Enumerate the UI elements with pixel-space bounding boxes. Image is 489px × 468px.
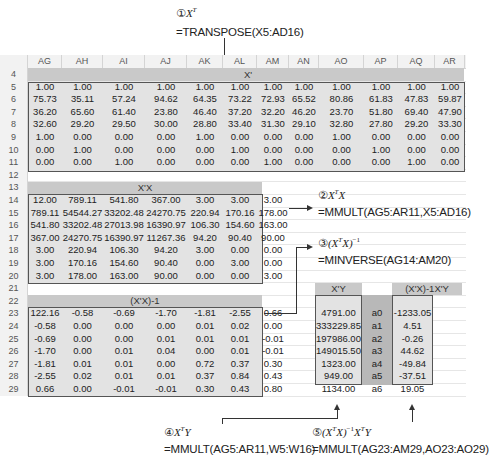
row-header-29[interactable]: 29 — [0, 383, 28, 396]
cell[interactable]: 0.04 — [145, 345, 187, 358]
cell[interactable]: 0.00 — [289, 144, 319, 157]
cell[interactable]: -0.69 — [28, 333, 62, 346]
coef-label-cell[interactable]: a0 — [362, 307, 392, 320]
cell[interactable]: 12.00 — [28, 194, 62, 207]
cell[interactable]: 94.20 — [145, 244, 187, 257]
cell[interactable]: 1.00 — [145, 81, 187, 94]
row-header-16[interactable]: 16 — [0, 219, 28, 232]
cell[interactable]: 1.00 — [257, 156, 289, 169]
cell[interactable]: 1.00 — [103, 156, 145, 169]
cell[interactable]: 0.00 — [289, 131, 319, 144]
cell[interactable]: 1.00 — [187, 81, 223, 94]
cell[interactable]: 220.94 — [62, 244, 103, 257]
cell[interactable]: 3.00 — [257, 270, 289, 283]
cell[interactable]: 1.00 — [319, 131, 364, 144]
cell[interactable]: 32.60 — [28, 118, 62, 131]
cell[interactable]: 65.60 — [62, 106, 103, 119]
cell[interactable]: 29.10 — [289, 118, 319, 131]
cell[interactable]: 0.00 — [62, 345, 103, 358]
col-header-aj[interactable]: AJ — [145, 55, 187, 68]
cell[interactable]: 90.40 — [145, 257, 187, 270]
cell[interactable]: 0.01 — [103, 345, 145, 358]
cell[interactable]: 35.11 — [62, 93, 103, 106]
cell[interactable]: -2.55 — [223, 307, 257, 320]
coef-cell[interactable]: -0.26 — [392, 333, 433, 346]
cell[interactable]: 27013.98 — [103, 219, 145, 232]
row-header-7[interactable]: 7 — [0, 106, 28, 119]
cell[interactable]: 0.30 — [187, 383, 223, 396]
cell[interactable]: 0.00 — [398, 131, 435, 144]
cell[interactable]: 163.00 — [257, 219, 289, 232]
cell[interactable]: 0.43 — [223, 383, 257, 396]
cell[interactable]: -0.01 — [257, 345, 289, 358]
cell[interactable]: 0.00 — [145, 156, 187, 169]
cell[interactable]: 0.01 — [187, 320, 223, 333]
cell[interactable]: 31.30 — [257, 118, 289, 131]
cell[interactable]: 0.01 — [223, 345, 257, 358]
cell[interactable]: -0.01 — [257, 333, 289, 346]
cell[interactable]: 0.00 — [319, 156, 364, 169]
cell[interactable]: 0.00 — [187, 144, 223, 157]
cell[interactable]: 1.00 — [289, 81, 319, 94]
cell[interactable]: 33202.48 — [62, 219, 103, 232]
cell[interactable]: 0.00 — [223, 270, 257, 283]
cell[interactable]: 28.80 — [187, 118, 223, 131]
cell[interactable]: 0.30 — [257, 358, 289, 371]
cell[interactable]: 80.86 — [319, 93, 364, 106]
cell[interactable]: 0.00 — [257, 131, 289, 144]
xty-cell[interactable]: 1134.00 — [315, 383, 362, 396]
cell[interactable]: 1.00 — [62, 81, 103, 94]
cell[interactable]: 1.00 — [435, 81, 465, 94]
coef-label-cell[interactable]: a4 — [362, 358, 392, 371]
cell[interactable]: -1.81 — [28, 358, 62, 371]
cell[interactable]: 0.00 — [145, 144, 187, 157]
cell[interactable]: 0.00 — [103, 144, 145, 157]
cell[interactable]: 367.00 — [145, 194, 187, 207]
coef-cell[interactable]: -37.51 — [392, 370, 433, 383]
cell[interactable]: 29.20 — [398, 118, 435, 131]
cell[interactable]: 0.00 — [319, 144, 364, 157]
row-header-21[interactable]: 21 — [0, 282, 28, 295]
cell[interactable]: 3.00 — [28, 270, 62, 283]
cell[interactable]: 0.43 — [257, 370, 289, 383]
cell[interactable]: 0.00 — [223, 244, 257, 257]
row-header-27[interactable]: 27 — [0, 358, 28, 371]
cell[interactable]: 1.00 — [319, 81, 364, 94]
cell[interactable]: 3.00 — [28, 244, 62, 257]
col-header-ar[interactable]: AR — [435, 55, 465, 68]
cell[interactable]: 0.00 — [289, 156, 319, 169]
cell[interactable]: 54544.27 — [62, 207, 103, 220]
cell[interactable]: 0.00 — [145, 320, 187, 333]
cell[interactable]: 61.40 — [103, 106, 145, 119]
cell[interactable]: 170.16 — [62, 257, 103, 270]
cell[interactable]: 0.00 — [257, 144, 289, 157]
cell[interactable]: 789.11 — [62, 194, 103, 207]
cell[interactable]: 30.00 — [145, 118, 187, 131]
cell[interactable]: 0.00 — [223, 156, 257, 169]
col-header-ah[interactable]: AH — [62, 55, 103, 68]
cell[interactable]: 23.70 — [319, 106, 364, 119]
cell[interactable]: 47.83 — [398, 93, 435, 106]
cell[interactable]: 0.00 — [257, 257, 289, 270]
row-header-25[interactable]: 25 — [0, 333, 28, 346]
xty-cell[interactable]: 1323.00 — [315, 358, 362, 371]
row-header-17[interactable]: 17 — [0, 232, 28, 245]
coef-cell[interactable]: -1233.05 — [392, 307, 433, 320]
cell[interactable]: -0.01 — [103, 383, 145, 396]
cell[interactable]: 23.80 — [145, 106, 187, 119]
cell[interactable]: 0.37 — [223, 358, 257, 371]
cell[interactable]: 94.20 — [187, 232, 223, 245]
cell[interactable]: 37.20 — [223, 106, 257, 119]
row-header-15[interactable]: 15 — [0, 207, 28, 220]
cell[interactable]: 0.00 — [62, 333, 103, 346]
cell[interactable]: 3.00 — [28, 257, 62, 270]
coef-label-cell[interactable]: a1 — [362, 320, 392, 333]
col-header-al[interactable]: AL — [223, 55, 257, 68]
row-header-24[interactable]: 24 — [0, 320, 28, 333]
cell[interactable]: 1.00 — [398, 81, 435, 94]
cell[interactable]: 163.00 — [103, 270, 145, 283]
coef-label-cell[interactable]: a6 — [362, 383, 392, 396]
col-header-ag[interactable]: AG — [28, 55, 62, 68]
coef-cell[interactable]: -49.84 — [392, 358, 433, 371]
col-header-am[interactable]: AM — [257, 55, 289, 68]
